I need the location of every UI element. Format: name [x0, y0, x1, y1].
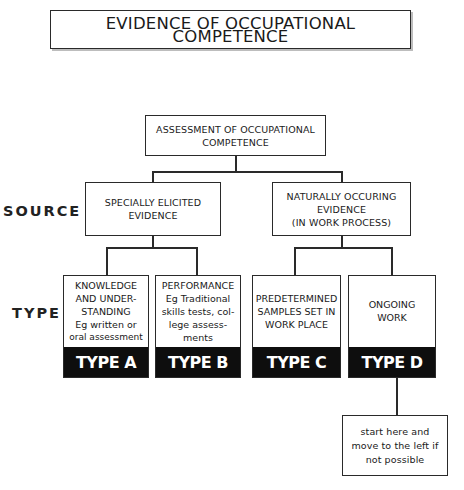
type-node-b: PERFORMANCE Eg Traditional skills tests,… [155, 275, 241, 378]
type-desc-line: WORK PLACE [256, 318, 337, 331]
type-desc-line: PERFORMANCE [162, 279, 235, 292]
source-node-line: SPECIALLY ELICITED [105, 196, 201, 209]
connector-to-type-d [391, 247, 393, 276]
type-desc-line: Eg written or [69, 318, 142, 331]
type-label: TYPE C [253, 347, 340, 377]
root-node-line: ASSESSMENT OF OCCUPATIONAL [156, 123, 315, 136]
type-node-description: PREDETERMINED SAMPLES SET IN WORK PLACE [253, 276, 340, 347]
note-line: start here and [351, 425, 438, 439]
type-desc-line: AND UNDER- [69, 292, 142, 305]
type-node-d: ONGOING WORK TYPE D [348, 275, 436, 378]
note-line: not possible [351, 453, 438, 467]
type-desc-line: ONGOING [369, 298, 416, 311]
note-start-here: start here and move to the left if not p… [342, 415, 448, 476]
row-label-source: SOURCE [3, 203, 81, 219]
source-node-line: (IN WORK PROCESS) [287, 216, 397, 229]
connector-types-ab-bar [106, 247, 197, 249]
type-node-a: KNOWLEDGE AND UNDER- STANDING Eg written… [63, 275, 149, 378]
source-node-line: NATURALLY OCCURING [287, 190, 397, 203]
source-node-line: EVIDENCE [287, 203, 397, 216]
source-node-specially-elicited: SPECIALLY ELICITED EVIDENCE [85, 182, 221, 236]
type-label: TYPE A [64, 347, 148, 377]
root-node-assessment: ASSESSMENT OF OCCUPATIONAL COMPETENCE [145, 115, 326, 156]
note-line: move to the left if [351, 439, 438, 453]
type-node-description: PERFORMANCE Eg Traditional skills tests,… [156, 276, 240, 347]
root-node-line: COMPETENCE [156, 136, 315, 149]
diagram-title: EVIDENCE OF OCCUPATIONAL COMPETENCE [50, 10, 411, 49]
source-node-line: EVIDENCE [105, 209, 201, 222]
connector-to-type-b [196, 247, 198, 276]
type-node-c: PREDETERMINED SAMPLES SET IN WORK PLACE … [252, 275, 341, 378]
connector-sources-bar [152, 171, 342, 173]
type-node-description: ONGOING WORK [349, 276, 435, 347]
type-desc-line: KNOWLEDGE [69, 279, 142, 292]
connector-to-type-c [294, 247, 296, 276]
type-desc-line: STANDING [69, 305, 142, 318]
diagram-title-text: EVIDENCE OF OCCUPATIONAL COMPETENCE [51, 17, 410, 43]
type-desc-line: PREDETERMINED [256, 292, 337, 305]
row-label-type: TYPE [12, 305, 61, 321]
type-desc-line: lege assess- [162, 318, 235, 331]
type-desc-line: WORK [369, 311, 416, 324]
connector-to-type-a [106, 247, 108, 276]
type-desc-line: skills tests, col- [162, 305, 235, 318]
type-desc-line: SAMPLES SET IN [256, 305, 337, 318]
source-node-naturally-occurring: NATURALLY OCCURING EVIDENCE (IN WORK PRO… [272, 182, 411, 236]
type-desc-line: Eg Traditional [162, 292, 235, 305]
type-node-description: KNOWLEDGE AND UNDER- STANDING Eg written… [64, 276, 148, 347]
type-desc-line: oral assessment [69, 331, 142, 344]
connector-types-cd-bar [294, 247, 392, 249]
type-label: TYPE D [349, 347, 435, 377]
connector-root-down [235, 156, 237, 172]
type-label: TYPE B [156, 347, 240, 377]
type-desc-line: ments [162, 331, 235, 344]
connector-type-d-to-note [396, 378, 398, 416]
